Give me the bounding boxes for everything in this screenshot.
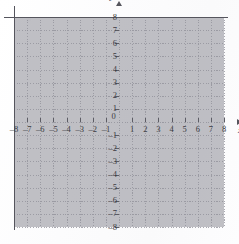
gridline-horizontal — [14, 148, 224, 149]
x-axis-tick-label: 8 — [216, 125, 232, 134]
gridline-horizontal — [14, 175, 224, 176]
y-axis-name: y — [110, 0, 114, 1]
y-axis-tick-label: –5 — [103, 183, 117, 192]
x-axis-tick — [158, 118, 159, 122]
gridline-horizontal — [14, 122, 224, 123]
y-axis-tick-label: 5 — [103, 52, 117, 61]
y-axis-tick-label: 8 — [103, 13, 117, 22]
x-axis-tick — [185, 118, 186, 122]
x-axis-tick — [172, 118, 173, 122]
x-axis-tick — [27, 118, 28, 122]
x-axis-arrowhead-icon — [237, 119, 239, 125]
y-axis-tick-label: –1 — [103, 131, 117, 140]
y-axis-tick-label: –4 — [103, 170, 117, 179]
y-axis-tick-label: –3 — [103, 157, 117, 166]
x-axis-tick — [145, 118, 146, 122]
y-axis-tick-label: –2 — [103, 144, 117, 153]
y-axis-tick-label: –7 — [103, 209, 117, 218]
y-axis-tick-label: 2 — [103, 91, 117, 100]
gridline-horizontal — [14, 30, 224, 31]
origin-label: 0 — [112, 112, 116, 121]
gridline-horizontal — [14, 83, 224, 84]
y-axis-tick-label: 3 — [103, 78, 117, 87]
gridline-horizontal — [14, 56, 224, 57]
x-axis-tick — [40, 118, 41, 122]
plot-area: –8–7–6–5–4–3–2–112345678–8–7–6–5–4–3–2–1… — [14, 17, 224, 227]
x-axis-tick — [224, 118, 225, 122]
gridline-horizontal — [14, 109, 224, 110]
y-axis-tick-label: 4 — [103, 65, 117, 74]
x-axis-tick — [106, 118, 107, 122]
gridline-horizontal — [14, 70, 224, 71]
x-axis-tick — [198, 118, 199, 122]
x-axis-name: x — [238, 125, 239, 135]
gridline-horizontal — [14, 201, 224, 202]
y-axis-tick-label: –6 — [103, 196, 117, 205]
y-axis-tick-label: –8 — [103, 223, 117, 232]
y-axis-tick-label: 6 — [103, 39, 117, 48]
gridline-vertical — [224, 17, 225, 227]
x-axis-tick — [14, 118, 15, 122]
x-axis-tick — [93, 118, 94, 122]
gridline-horizontal — [14, 161, 224, 162]
y-axis-arrowhead-icon — [116, 1, 122, 6]
gridline-horizontal — [14, 43, 224, 44]
x-axis-tick — [80, 118, 81, 122]
x-axis-tick — [67, 118, 68, 122]
x-axis-tick — [53, 118, 54, 122]
gridline-horizontal — [14, 188, 224, 189]
gridline-horizontal — [14, 96, 224, 97]
x-axis-tick — [132, 118, 133, 122]
gridline-horizontal — [14, 135, 224, 136]
x-axis-tick — [211, 118, 212, 122]
gridline-horizontal — [14, 214, 224, 215]
coordinate-grid-figure: –8–7–6–5–4–3–2–112345678–8–7–6–5–4–3–2–1… — [0, 0, 239, 244]
gridline-horizontal — [14, 227, 224, 228]
y-axis-tick-label: 7 — [103, 26, 117, 35]
